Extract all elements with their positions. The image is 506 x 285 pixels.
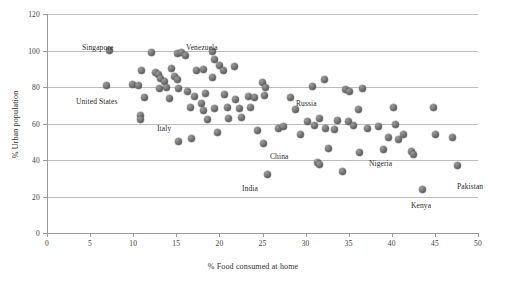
data-point (385, 134, 392, 141)
data-point (454, 162, 461, 169)
data-point (103, 82, 110, 89)
x-tick-mark (47, 233, 48, 237)
point-annotation: Kenya (411, 201, 431, 210)
data-point (359, 85, 366, 92)
data-point (214, 129, 221, 136)
data-point (261, 92, 268, 99)
y-tick-mark (43, 14, 47, 15)
data-point (430, 104, 437, 111)
point-annotation: Singapore (82, 43, 113, 52)
data-point (221, 91, 228, 98)
data-point (262, 84, 269, 91)
data-point (204, 116, 211, 123)
point-annotation: Pakistan (457, 182, 483, 191)
data-point (232, 96, 239, 103)
data-point (225, 115, 232, 122)
data-point (331, 126, 338, 133)
data-point (175, 85, 182, 92)
scatter-chart: 020406080100120 05101520253035404550 Sin… (0, 0, 506, 285)
x-tick-mark (478, 233, 479, 237)
data-point (224, 104, 231, 111)
data-point (364, 125, 371, 132)
data-point (200, 107, 207, 114)
x-tick-mark (392, 233, 393, 237)
data-point (280, 123, 287, 130)
x-tick-label: 40 (380, 239, 404, 248)
point-annotation: India (242, 184, 258, 193)
x-tick-label: 0 (35, 239, 59, 248)
data-point (238, 114, 245, 121)
data-point (200, 66, 207, 73)
data-point (380, 146, 387, 153)
point-annotation: United States (76, 97, 118, 106)
data-point (311, 122, 318, 129)
data-point (356, 149, 363, 156)
y-tick-label: 0 (14, 229, 40, 238)
data-point (141, 94, 148, 101)
data-point (287, 94, 294, 101)
data-point (202, 90, 209, 97)
data-point (236, 105, 243, 112)
x-tick-label: 10 (121, 239, 145, 248)
data-point (188, 135, 195, 142)
y-tick-mark (43, 87, 47, 88)
y-axis-title: % Urban population (11, 55, 20, 195)
data-point (297, 131, 304, 138)
data-point (209, 74, 216, 81)
data-point (135, 82, 142, 89)
data-point (346, 88, 353, 95)
data-point (316, 161, 323, 168)
data-point (231, 63, 238, 70)
data-point (251, 94, 258, 101)
data-point (339, 168, 346, 175)
x-tick-mark (90, 233, 91, 237)
data-point (220, 67, 227, 74)
data-point (260, 140, 267, 147)
x-tick-label: 30 (294, 239, 318, 248)
data-point (316, 115, 323, 122)
data-point (148, 49, 155, 56)
x-tick-mark (306, 233, 307, 237)
x-tick-label: 5 (78, 239, 102, 248)
x-tick-label: 50 (466, 239, 490, 248)
data-point (184, 88, 191, 95)
point-annotation: Russia (296, 99, 317, 108)
point-annotation: Venezuela (186, 43, 218, 52)
x-tick-mark (219, 233, 220, 237)
data-point (191, 93, 198, 100)
x-tick-mark (176, 233, 177, 237)
data-point (322, 125, 329, 132)
x-tick-mark (263, 233, 264, 237)
data-point (375, 123, 382, 130)
data-point (410, 151, 417, 158)
data-point (334, 117, 341, 124)
data-point (304, 118, 311, 125)
data-point (137, 116, 144, 123)
data-point (325, 145, 332, 152)
data-point (156, 85, 163, 92)
data-point (355, 106, 362, 113)
data-point (168, 65, 175, 72)
point-annotation: China (270, 152, 288, 161)
point-annotation: Italy (157, 124, 171, 133)
data-point (138, 67, 145, 74)
data-point (321, 76, 328, 83)
x-tick-mark (349, 233, 350, 237)
data-point (254, 127, 261, 134)
data-point (432, 131, 439, 138)
x-tick-label: 25 (251, 239, 275, 248)
data-point (163, 84, 170, 91)
data-point (247, 104, 254, 111)
x-tick-label: 45 (423, 239, 447, 248)
data-point (449, 134, 456, 141)
y-tick-mark (43, 197, 47, 198)
data-point (419, 186, 426, 193)
x-tick-mark (133, 233, 134, 237)
data-point (350, 122, 357, 129)
data-point (182, 52, 189, 59)
data-point (400, 131, 407, 138)
data-point (187, 104, 194, 111)
data-point (392, 121, 399, 128)
x-tick-label: 15 (164, 239, 188, 248)
point-annotation: Nigeria (369, 159, 392, 168)
